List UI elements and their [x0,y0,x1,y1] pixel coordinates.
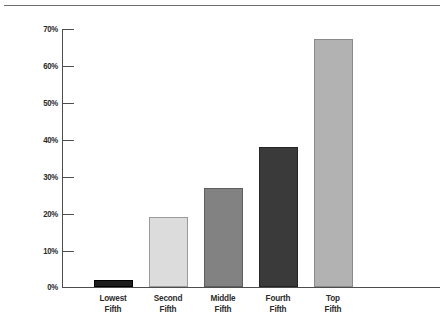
y-tick-label-30: 30% [43,172,58,182]
y-tick-mark-70 [63,29,74,30]
bar-top-fifth [314,39,353,287]
y-tick-label-60: 60% [43,61,58,71]
bar-fourth-fifth [259,147,298,287]
y-axis-line [62,29,63,288]
y-tick-mark-60 [63,66,74,67]
plot-area: 70% 60% 50% 40% 30% 20% 10% 0% Lowest Fi… [0,0,444,332]
y-tick-mark-50 [63,103,74,104]
x-category-label-top-fifth: Top Fifth [300,293,365,314]
bar-chart-figure: 70% 60% 50% 40% 30% 20% 10% 0% Lowest Fi… [0,0,444,332]
y-tick-label-10: 10% [43,246,58,256]
bar-second-fifth [149,217,188,287]
y-tick-mark-10 [63,251,74,252]
x-axis-line [62,287,440,288]
y-tick-label-50: 50% [43,98,58,108]
y-tick-mark-20 [63,214,74,215]
y-tick-label-40: 40% [43,135,58,145]
y-tick-label-0: 0% [47,282,58,292]
x-category-line-2: Fifth [300,304,365,315]
bar-middle-fifth [204,188,243,287]
y-tick-mark-40 [63,140,74,141]
x-category-line-1: Top [300,293,365,304]
y-tick-label-20: 20% [43,209,58,219]
y-tick-mark-30 [63,177,74,178]
bar-lowest-fifth [94,280,133,287]
y-tick-label-70: 70% [43,24,58,34]
